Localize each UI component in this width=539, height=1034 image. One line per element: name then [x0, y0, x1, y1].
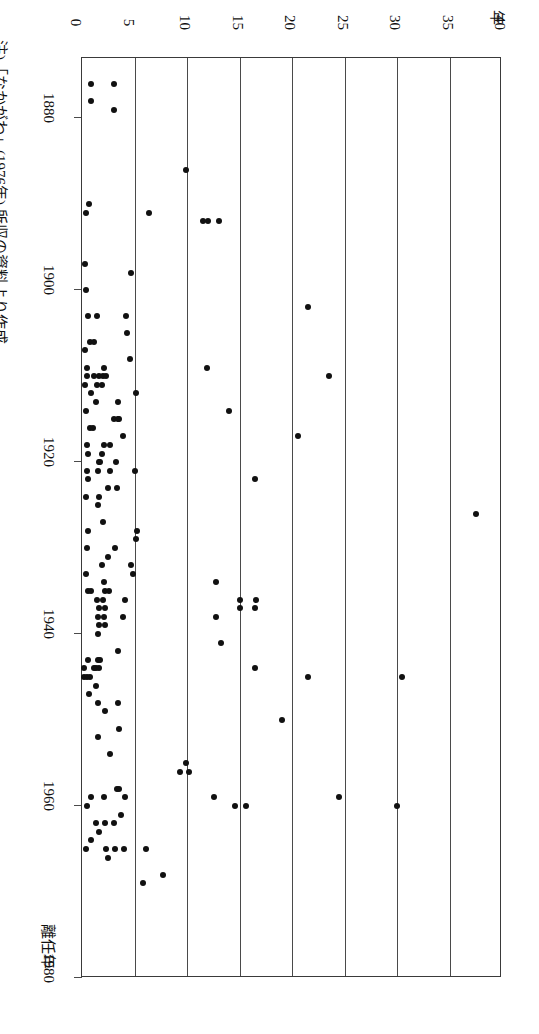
data-point [177, 769, 183, 775]
value-tick-label: 20 [281, 15, 298, 30]
year-tick-label: 1940 [40, 609, 57, 639]
data-point [183, 167, 189, 173]
data-point [100, 597, 106, 603]
value-tick-label: 30 [386, 15, 403, 30]
year-tick-label: 1880 [40, 93, 57, 123]
value-tick-5: 5 [125, 14, 133, 31]
data-point [83, 408, 89, 414]
data-point [88, 588, 94, 594]
gridline-25 [345, 58, 346, 976]
data-point [83, 287, 89, 293]
data-point [253, 597, 259, 603]
data-point [86, 691, 92, 697]
data-point [83, 571, 89, 577]
value-tick-20: 20 [282, 14, 297, 31]
data-point [84, 545, 90, 551]
data-point [101, 579, 107, 585]
data-point [128, 270, 134, 276]
data-point [211, 794, 217, 800]
data-point [87, 674, 93, 680]
scatter-plot-area [81, 57, 501, 977]
data-point [94, 597, 100, 603]
data-point [111, 820, 117, 826]
data-point [84, 468, 90, 474]
data-point [107, 751, 113, 757]
data-point [105, 485, 111, 491]
data-point [114, 485, 120, 491]
data-point [133, 536, 139, 542]
value-tick-35: 35 [440, 14, 455, 31]
gridline-20 [292, 58, 293, 976]
data-point [143, 846, 149, 852]
data-point [252, 476, 258, 482]
data-point [112, 846, 118, 852]
data-point [82, 261, 88, 267]
data-point [213, 579, 219, 585]
year-tick-label: 1960 [40, 781, 57, 811]
source-note-text: 注)「なかがわ」(1976年) 所収の資料より作成。 [0, 40, 12, 359]
data-point [100, 519, 106, 525]
value-tick-0: 0 [72, 14, 80, 31]
value-tick-label: 40 [491, 15, 508, 30]
data-point [83, 494, 89, 500]
data-point [88, 794, 94, 800]
value-tick-30: 30 [387, 14, 402, 31]
data-point [122, 597, 128, 603]
data-point [84, 803, 90, 809]
data-point [85, 657, 91, 663]
data-point [96, 605, 102, 611]
data-point [111, 107, 117, 113]
data-point [96, 494, 102, 500]
value-tick-40: 40 [492, 14, 507, 31]
data-point [399, 674, 405, 680]
value-tick-25: 25 [335, 14, 350, 31]
data-point [84, 365, 90, 371]
value-tick-10: 10 [177, 14, 192, 31]
data-point [124, 330, 130, 336]
data-point [132, 468, 138, 474]
data-point [326, 373, 332, 379]
data-point [99, 562, 105, 568]
year-tick-label: 1980 [40, 953, 57, 983]
year-tick-mark-1980 [74, 977, 82, 978]
data-point [113, 459, 119, 465]
data-point [186, 769, 192, 775]
data-point [160, 872, 166, 878]
data-point [97, 459, 103, 465]
data-point [123, 313, 129, 319]
value-axis-title: 年 [509, 10, 524, 31]
data-point [111, 81, 117, 87]
data-point [112, 545, 118, 551]
data-point [91, 339, 97, 345]
data-point [95, 614, 101, 620]
data-point [305, 304, 311, 310]
value-tick-label: 5 [120, 19, 137, 27]
value-tick-label: 10 [176, 15, 193, 30]
data-point [115, 700, 121, 706]
data-point [88, 390, 94, 396]
data-point [105, 554, 111, 560]
data-point [305, 674, 311, 680]
year-tick-label: 1920 [40, 437, 57, 467]
data-point [102, 708, 108, 714]
data-point [252, 605, 258, 611]
value-tick-label: 0 [67, 19, 84, 27]
data-point [130, 571, 136, 577]
value-tick-15: 15 [230, 14, 245, 31]
data-point [116, 416, 122, 422]
data-point [96, 665, 102, 671]
data-point [183, 760, 189, 766]
data-point [102, 820, 108, 826]
value-tick-label: 15 [229, 15, 246, 30]
data-point [205, 218, 211, 224]
data-point [90, 425, 96, 431]
data-point [394, 803, 400, 809]
data-point [103, 373, 109, 379]
data-point [237, 605, 243, 611]
data-point [94, 313, 100, 319]
gridline-5 [135, 58, 136, 976]
data-point [88, 98, 94, 104]
data-point [200, 218, 206, 224]
data-point [95, 468, 101, 474]
data-point [121, 846, 127, 852]
